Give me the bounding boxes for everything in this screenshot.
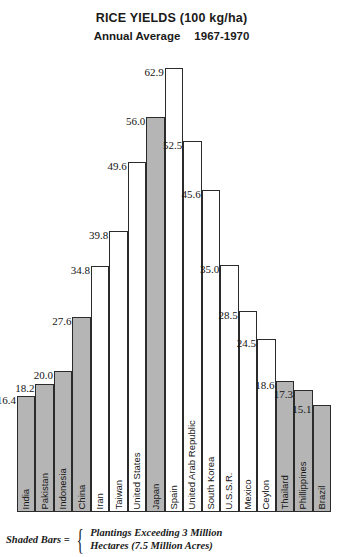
bar-iran	[91, 266, 109, 512]
bar-category-label: United States	[132, 452, 142, 509]
bar-category-label: South Korea	[205, 456, 215, 509]
bar-category-label: Mexico	[242, 479, 252, 509]
bar-category-label: Phillippines	[298, 461, 308, 509]
bar-category-label: Japan	[150, 483, 160, 509]
bar-value-label: 27.6	[41, 316, 71, 327]
bar-taiwan	[109, 231, 127, 512]
bar-category-label: Iran	[95, 493, 105, 509]
legend-line-1: Plantings Exceeding 3 Million	[90, 527, 222, 538]
bar-china	[72, 317, 90, 512]
legend-line-2: Hectares (7.5 Million Acres)	[90, 540, 213, 551]
bar-value-label: 52.5	[152, 140, 182, 151]
plot-area: 16.4India18.2Pakistan20.0Indonesia27.6Ch…	[0, 0, 343, 557]
bar-value-label: 17.3	[263, 389, 293, 400]
bar-value-label: 56.0	[115, 116, 145, 127]
bar-value-label: 45.6	[171, 189, 201, 200]
bar-category-label: United Arab Republic	[187, 420, 197, 509]
bar-spain	[165, 68, 183, 512]
bar-category-label: Taiwan	[113, 479, 123, 509]
legend: Shaded Bars = { Plantings Exceeding 3 Mi…	[6, 522, 343, 556]
bar-category-label: Thailard	[279, 475, 289, 509]
legend-brace-icon: {	[76, 524, 83, 554]
bar-category-label: Brazil	[316, 485, 326, 509]
rice-yields-chart: RICE YIELDS (100 kg/ha) Annual Average19…	[0, 0, 343, 557]
bar-value-label: 16.4	[0, 395, 16, 406]
bar-value-label: 49.6	[97, 161, 127, 172]
bar-value-label: 39.8	[78, 230, 108, 241]
bar-japan	[146, 117, 164, 512]
bar-category-label: India	[21, 488, 31, 509]
bar-value-label: 35.0	[189, 264, 219, 275]
bar-value-label: 20.0	[23, 370, 53, 381]
legend-description: Plantings Exceeding 3 Million Hectares (…	[90, 526, 222, 552]
bar-category-label: Indonesia	[58, 468, 68, 509]
bar-category-label: Pakistan	[39, 473, 49, 509]
bar-value-label: 28.5	[208, 310, 238, 321]
bar-value-label: 24.5	[226, 338, 256, 349]
legend-key-label: Shaded Bars =	[6, 534, 73, 545]
bar-category-label: U.S.S.R.	[224, 472, 234, 509]
bar-value-label: 15.1	[282, 404, 312, 415]
bar-value-label: 34.8	[60, 265, 90, 276]
bar-category-label: China	[76, 484, 86, 509]
bar-category-label: Spain	[169, 485, 179, 509]
bar-value-label: 62.9	[134, 67, 164, 78]
bar-category-label: Ceylon	[261, 479, 271, 509]
bar-value-label: 18.2	[4, 383, 34, 394]
